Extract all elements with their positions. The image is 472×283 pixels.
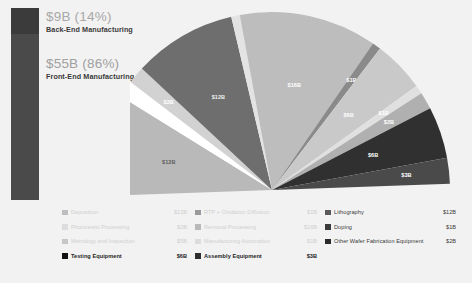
legend-swatch-icon [62, 224, 68, 230]
legend-item-label: Testing Equipment [71, 253, 173, 259]
legend-item-value: $1B [446, 224, 456, 230]
legend-item-value: $12B [443, 209, 456, 215]
legend-item[interactable]: RTP + Oxidation Diffusion$1B [195, 205, 325, 220]
pie-slice-label: $6B [343, 112, 353, 118]
legend-swatch-icon [195, 239, 201, 245]
pie-slice-label: $3B [401, 172, 411, 178]
legend-swatch-icon [195, 210, 201, 216]
pie-slice-label: $12B [212, 94, 225, 100]
legend-item-label: Photoresist Processing [71, 224, 173, 230]
bar-segment-front-end [11, 34, 39, 200]
legend-swatch-icon [325, 210, 331, 216]
legend-item-label: RTP + Oxidation Diffusion [204, 209, 303, 215]
legend-item-empty [325, 249, 464, 264]
legend-item[interactable]: Metrology and Inspection$5B [62, 234, 195, 249]
legend-swatch-icon [325, 224, 331, 230]
pie-slice-label: $2B [384, 119, 394, 125]
legend-item-value: $3B [307, 253, 317, 259]
chart-canvas: $9B (14%) Back-End Manufacturing $55B (8… [0, 0, 472, 283]
legend-item-label: Assembly Equipment [204, 253, 303, 259]
legend-item[interactable]: Assembly Equipment$3B [195, 249, 325, 264]
legend-swatch-icon [195, 253, 201, 259]
legend-item-value: $2B [446, 238, 456, 244]
pie-slice-label: $6B [368, 152, 378, 158]
legend-item-label: Metrology and Inspection [71, 238, 173, 244]
back-end-value: $9B (14%) [46, 9, 133, 24]
front-end-label: Front-End Manufacturing [46, 71, 134, 82]
legend-swatch-icon [195, 224, 201, 230]
back-end-label: Back-End Manufacturing [46, 24, 133, 35]
legend-item[interactable]: Testing Equipment$6B [62, 249, 195, 264]
legend-item[interactable]: Other Wafer Fabrication Equipment$2B [325, 234, 464, 249]
legend-item-label: Manufacturing Automation [204, 238, 303, 244]
stacked-bar [11, 8, 39, 200]
legend-item-label: Doping [334, 224, 442, 230]
legend-item-label: Removal Processing [204, 224, 300, 230]
legend-swatch-icon [62, 239, 68, 245]
legend-item-value: $5B [177, 238, 187, 244]
pie-chart: $12B$2B$12B$16B$1B$6B$1B$2B$6B$3B [130, 6, 470, 196]
legend-swatch-icon [62, 253, 68, 259]
legend-item[interactable]: Doping$1B [325, 220, 464, 235]
legend-swatch-icon [325, 239, 331, 245]
legend-swatch-icon [62, 210, 68, 216]
front-end-value: $55B (86%) [46, 56, 134, 71]
legend-item[interactable]: Lithography$12B [325, 205, 464, 220]
chart-legend: Deposition$12BRTP + Oxidation Diffusion$… [62, 205, 464, 267]
legend-item-value: $1B [307, 238, 317, 244]
legend-item-value: $6B [177, 253, 187, 259]
legend-item[interactable]: Deposition$12B [62, 205, 195, 220]
pie-slice-label: $1B [379, 110, 389, 116]
legend-item-value: $1B [307, 209, 317, 215]
legend-item-value: $16B [304, 224, 317, 230]
legend-item-value: $12B [174, 209, 187, 215]
legend-item-label: Deposition [71, 209, 170, 215]
callout-back-end: $9B (14%) Back-End Manufacturing [46, 9, 133, 35]
callout-front-end: $55B (86%) Front-End Manufacturing [46, 56, 134, 82]
legend-item[interactable]: Manufacturing Automation$1B [195, 234, 325, 249]
bar-segment-back-end [11, 8, 39, 34]
legend-item-value: $2B [177, 224, 187, 230]
pie-slice-label: $16B [288, 82, 301, 88]
pie-slice-label: $12B [162, 159, 175, 165]
pie-svg: $12B$2B$12B$16B$1B$6B$1B$2B$6B$3B [130, 6, 470, 196]
pie-slice-label: $2B [164, 99, 174, 105]
legend-item-label: Lithography [334, 209, 439, 215]
legend-item[interactable]: Photoresist Processing$2B [62, 220, 195, 235]
legend-item-label: Other Wafer Fabrication Equipment [334, 238, 442, 244]
legend-item[interactable]: Removal Processing$16B [195, 220, 325, 235]
